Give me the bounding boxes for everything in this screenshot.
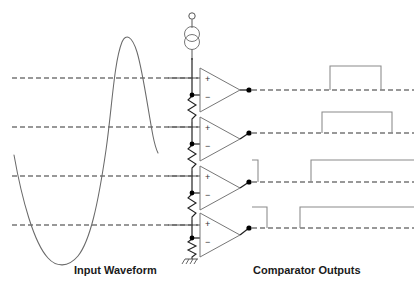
comparator-3-plus-label: +	[205, 172, 210, 182]
output-pulse-1	[330, 66, 381, 90]
resistor-2-icon	[188, 145, 196, 171]
resistor-1-icon	[188, 96, 196, 122]
input-sine-curve	[14, 37, 158, 265]
ladder-tap-node-4	[190, 236, 195, 241]
comparator-1-output-node	[246, 87, 251, 92]
comparator-3-group: + −	[168, 166, 252, 210]
resistor-ladder-group	[182, 58, 198, 264]
resistor-4-icon	[188, 239, 196, 259]
source-terminal-icon	[189, 13, 195, 19]
ladder-tap-node-2	[190, 142, 195, 147]
circuit-figure: + − + − + −	[0, 0, 414, 294]
comparator-3-minus-label: −	[205, 190, 210, 200]
comparator-4-output-node	[246, 225, 251, 230]
ladder-tap-node-1	[190, 93, 195, 98]
comparator-1-minus-label: −	[205, 92, 210, 102]
input-waveform-group	[14, 37, 158, 265]
threshold-lines-group	[12, 78, 198, 225]
input-waveform-caption: Input Waveform	[74, 264, 157, 276]
comparator-4-minus-label: −	[205, 237, 210, 247]
ladder-tap-node-3	[190, 191, 195, 196]
comparator-4-plus-label: +	[205, 219, 210, 229]
output-pulse-4	[252, 207, 414, 228]
diagram-canvas: + − + − + −	[0, 0, 414, 294]
comparator-2-group: + −	[168, 117, 252, 161]
comparator-1-group: + −	[168, 68, 252, 112]
comparator-outputs-caption: Comparator Outputs	[253, 264, 361, 276]
output-pulse-3	[252, 160, 414, 182]
comparator-2-minus-label: −	[205, 141, 210, 151]
comparator-1-plus-label: +	[205, 74, 210, 84]
output-pulse-2	[322, 112, 392, 133]
comparator-2-plus-label: +	[205, 123, 210, 133]
reference-source-group	[185, 13, 200, 60]
comparator-2-output-node	[246, 130, 251, 135]
comparator-4-group: + −	[168, 213, 252, 257]
comparator-3-output-node	[246, 179, 251, 184]
ground-symbol-icon	[182, 259, 198, 264]
resistor-3-icon	[188, 194, 196, 220]
